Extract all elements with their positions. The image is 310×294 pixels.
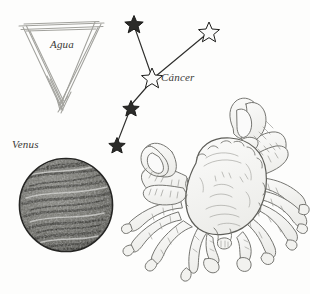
plate-artwork xyxy=(0,0,310,294)
planet-label: Venus xyxy=(12,138,39,150)
crab-left-claw xyxy=(141,143,189,205)
constellation-cancer xyxy=(109,16,220,153)
star-1 xyxy=(125,16,143,33)
constellation-stars xyxy=(109,16,220,153)
star-5 xyxy=(109,138,125,153)
astrology-plate: Agua Cáncer Venus xyxy=(0,0,310,294)
constellation-lines xyxy=(118,27,207,142)
planet-venus xyxy=(18,157,116,255)
water-element-label: Agua xyxy=(50,38,74,50)
water-element-symbol xyxy=(19,22,104,114)
crab-illustration xyxy=(121,98,309,281)
star-4 xyxy=(123,101,139,116)
star-3 xyxy=(142,68,163,88)
constellation-label: Cáncer xyxy=(161,71,195,83)
